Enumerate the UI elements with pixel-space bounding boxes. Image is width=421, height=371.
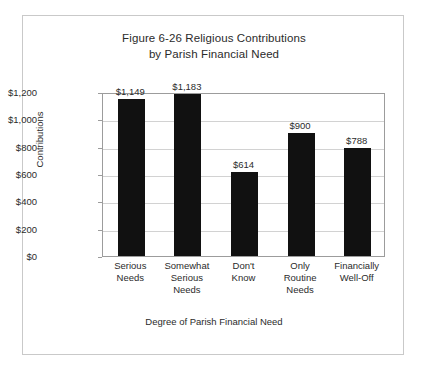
gridline: [103, 121, 384, 122]
x-axis-category-label: SomewhatSeriousNeeds: [159, 260, 216, 296]
x-axis-category-label: SeriousNeeds: [102, 260, 159, 284]
bar[interactable]: [288, 133, 315, 256]
bar[interactable]: [118, 99, 145, 256]
x-axis-category-label-line: Well-Off: [328, 272, 385, 284]
x-axis-category-label: FinanciallyWell-Off: [328, 260, 385, 284]
x-axis-category-label-line: Only: [272, 260, 329, 272]
bar[interactable]: [344, 148, 371, 256]
bar-value-label: $1,149: [100, 86, 160, 97]
y-axis-tick-label: $600: [0, 170, 37, 180]
bar-value-label: $1,183: [157, 81, 217, 92]
y-axis-tick-label: $400: [0, 197, 37, 207]
chart-title-line-1: Figure 6-26 Religious Contributions: [23, 30, 405, 46]
figure-frame: Figure 6-26 Religious Contributions by P…: [22, 15, 404, 355]
gridline: [103, 149, 384, 150]
x-axis-category-label-line: Serious: [102, 260, 159, 272]
x-axis-category-label: Don'tKnow: [215, 260, 272, 284]
x-axis-category-label-line: Needs: [272, 284, 329, 296]
y-axis-tick-label: $0: [0, 252, 37, 262]
bar-value-label: $788: [327, 135, 387, 146]
x-axis-category-label-line: Serious: [159, 272, 216, 284]
bar[interactable]: [231, 172, 258, 256]
bar-value-label: $614: [214, 159, 274, 170]
x-axis-category-label-line: Needs: [102, 272, 159, 284]
y-axis-tick-label: $1,000: [0, 115, 37, 125]
chart-title: Figure 6-26 Religious Contributions by P…: [23, 30, 405, 62]
chart-title-line-2: by Parish Financial Need: [23, 46, 405, 62]
x-axis-category-label: OnlyRoutineNeeds: [272, 260, 329, 296]
x-axis-category-label-line: Don't: [215, 260, 272, 272]
bar-value-label: $900: [270, 120, 330, 131]
x-axis-category-label-line: Needs: [159, 284, 216, 296]
x-axis-category-label-line: Routine: [272, 272, 329, 284]
y-axis-tick-label: $1,200: [0, 88, 37, 98]
x-axis-category-label-line: Somewhat: [159, 260, 216, 272]
x-axis-category-label-line: Financially: [328, 260, 385, 272]
x-axis-title: Degree of Parish Financial Need: [23, 316, 405, 327]
plot-area: [102, 93, 385, 257]
y-axis-tick-label: $800: [0, 143, 37, 153]
bar[interactable]: [174, 94, 201, 256]
x-axis-category-label-line: Know: [215, 272, 272, 284]
y-axis-tick-label: $200: [0, 225, 37, 235]
y-axis-tick-mark: [98, 257, 102, 258]
